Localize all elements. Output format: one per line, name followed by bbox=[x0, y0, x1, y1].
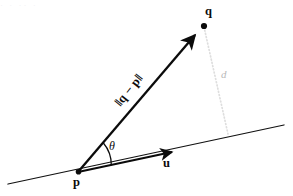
figure-canvas bbox=[0, 0, 293, 196]
vector-q-minus-p bbox=[78, 35, 195, 172]
point-marker-p bbox=[76, 169, 82, 175]
label-angle-theta: θ bbox=[109, 140, 115, 152]
vector-geometry-figure: · · ·· · p q u θ d ‖q − p‖ bbox=[0, 0, 293, 196]
label-vector-u: u bbox=[163, 157, 170, 170]
label-point-q: q bbox=[205, 5, 212, 18]
point-marker-q bbox=[201, 23, 207, 29]
label-distance-d: d bbox=[221, 69, 227, 80]
baseline bbox=[8, 125, 284, 184]
distance-dotted-line bbox=[204, 27, 228, 134]
label-point-p: p bbox=[73, 176, 80, 189]
